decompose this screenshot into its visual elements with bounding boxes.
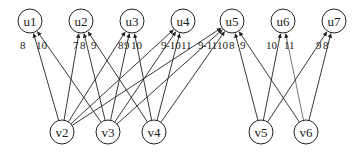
edge-weight-label: 8	[323, 39, 329, 51]
edge-weight-label: 10	[36, 39, 48, 51]
node-v2: v2	[50, 120, 74, 144]
node-label: u4	[177, 14, 191, 29]
node-label: u5	[226, 14, 239, 29]
edge-weight-label: 10	[266, 39, 278, 51]
edge-weight-label: -10	[166, 39, 181, 51]
node-u2: u2	[69, 9, 93, 33]
edge-weight-label: 10	[217, 39, 229, 51]
edge-weight-label: 8	[80, 39, 86, 51]
node-u7: u7	[322, 9, 346, 33]
node-label: v5	[255, 125, 268, 140]
edge-weight-label: 11	[284, 39, 295, 51]
edge-weight-label: -11	[203, 39, 217, 51]
edge-weight-label: 8	[229, 39, 235, 51]
node-u1: u1	[18, 9, 42, 33]
bipartite-graph-diagram: 81078989109-10119-111089101198 u1u2u3u4u…	[0, 0, 360, 157]
node-label: v4	[148, 125, 162, 140]
node-label: u6	[277, 14, 291, 29]
node-v6: v6	[294, 120, 318, 144]
edge-weight-label: 11	[181, 39, 192, 51]
node-label: v3	[102, 125, 115, 140]
node-u5: u5	[220, 9, 244, 33]
edge-weight-label: 9	[240, 39, 246, 51]
edge-v5-u5	[235, 34, 258, 121]
node-label: u2	[75, 14, 88, 29]
node-u4: u4	[171, 9, 195, 33]
node-label: u1	[24, 14, 37, 29]
edge-weight-label: 7	[73, 39, 79, 51]
node-v4: v4	[142, 120, 166, 144]
node-label: u3	[126, 14, 139, 29]
graph-svg: 81078989109-10119-111089101198 u1u2u3u4u…	[0, 0, 360, 157]
edge-weight-label: 8	[20, 39, 26, 51]
node-v5: v5	[249, 120, 273, 144]
edge-weight-label: 9	[91, 39, 97, 51]
node-label: v6	[300, 125, 314, 140]
edge-weight-label: 10	[131, 39, 143, 51]
node-label: v2	[56, 125, 69, 140]
node-v3: v3	[96, 120, 120, 144]
edge-weight-label: 9	[124, 39, 130, 51]
node-label: u7	[328, 14, 342, 29]
edge-weight-label: 9	[316, 39, 322, 51]
node-u3: u3	[120, 9, 144, 33]
node-u6: u6	[271, 9, 295, 33]
weight-labels-layer: 81078989109-10119-111089101198	[20, 39, 329, 51]
nodes-layer: u1u2u3u4u5u6u7v2v3v4v5v6	[18, 9, 346, 144]
